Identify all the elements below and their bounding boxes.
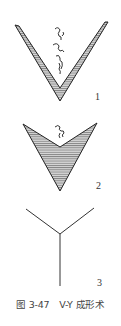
panel-3-label: 3 xyxy=(97,277,102,288)
panel-1-label: 1 xyxy=(95,91,100,102)
panel-2-label: 2 xyxy=(96,180,101,191)
panel-3-y-closure xyxy=(26,208,94,286)
panel-1-v-incision xyxy=(15,22,108,101)
panel-2-advanced-flap xyxy=(23,123,97,191)
figure-caption: 图 3-47 V-Y 成形术 xyxy=(0,297,121,311)
v-y-plasty-diagram xyxy=(0,0,121,326)
